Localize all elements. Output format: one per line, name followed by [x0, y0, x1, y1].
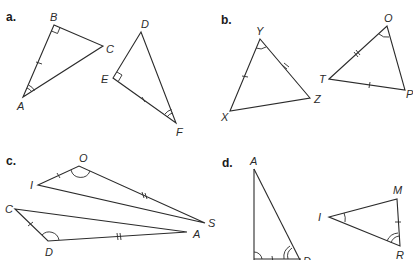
double-angle-arc-d	[288, 248, 292, 259]
vertex-label-p: P	[406, 88, 413, 100]
angle-arc-o	[379, 34, 389, 37]
angle-arc-y	[256, 47, 266, 49]
angle-arc-i	[344, 213, 345, 222]
part-d: d. A D I M R	[222, 155, 404, 260]
vertex-label-a-d: A	[249, 155, 257, 167]
vertex-label-b: B	[50, 11, 57, 23]
angle-arc-f	[167, 113, 173, 117]
part-a-label: a.	[6, 10, 16, 24]
vertex-label-a: A	[16, 100, 24, 112]
triangle-def	[113, 32, 176, 123]
part-d-label: d.	[222, 156, 233, 170]
vertex-label-c-c: C	[5, 203, 13, 215]
vertex-label-y: Y	[256, 25, 264, 37]
part-c-label: c.	[6, 154, 16, 168]
vertex-label-s: S	[208, 217, 216, 229]
angle-arc-d-c	[42, 232, 59, 240]
tick-mark-tp	[369, 82, 370, 88]
triangle-ad	[254, 169, 301, 260]
vertex-label-a-c: A	[192, 228, 200, 240]
triangle-ios	[38, 166, 205, 223]
vertex-label-d-c: D	[45, 246, 53, 258]
triangle-xyz	[230, 39, 310, 111]
angle-arc-a	[27, 88, 32, 92]
triangle-cda	[15, 209, 187, 241]
part-a: a. B C A D E F	[6, 10, 184, 138]
triangle-imr	[329, 199, 401, 246]
triangle-top	[329, 26, 405, 90]
tick-mark-xy	[242, 76, 248, 77]
vertex-label-f: F	[176, 126, 184, 138]
vertex-label-m: M	[393, 184, 403, 196]
angle-arc-o-c	[71, 170, 90, 177]
vertex-label-i-c: I	[30, 179, 33, 191]
vertex-label-z: Z	[313, 93, 322, 105]
part-b: b. Y X Z O T P	[220, 12, 413, 123]
vertex-label-o: O	[384, 12, 393, 24]
part-c: c. O I S C D A	[5, 152, 216, 258]
triangle-abc	[23, 25, 103, 97]
vertex-label-o-c: O	[79, 152, 88, 164]
vertex-label-c: C	[106, 43, 114, 55]
vertex-label-i-d: I	[318, 211, 321, 223]
right-angle-mark-e	[117, 72, 122, 81]
congruent-triangles-diagram: a. B C A D E F b.	[0, 0, 413, 260]
double-tick-mark-da	[117, 233, 118, 240]
vertex-label-t: T	[319, 73, 327, 85]
double-angle-arc-r	[391, 236, 399, 243]
angle-arc-bottom-left	[254, 252, 262, 259]
vertex-label-d: D	[141, 18, 149, 30]
vertex-label-e: E	[101, 73, 109, 85]
part-b-label: b.	[221, 13, 232, 27]
vertex-label-r: R	[396, 249, 404, 260]
vertex-label-x: X	[220, 111, 229, 123]
tick-mark-bottom	[272, 256, 273, 260]
vertex-label-d-d: D	[303, 255, 311, 260]
